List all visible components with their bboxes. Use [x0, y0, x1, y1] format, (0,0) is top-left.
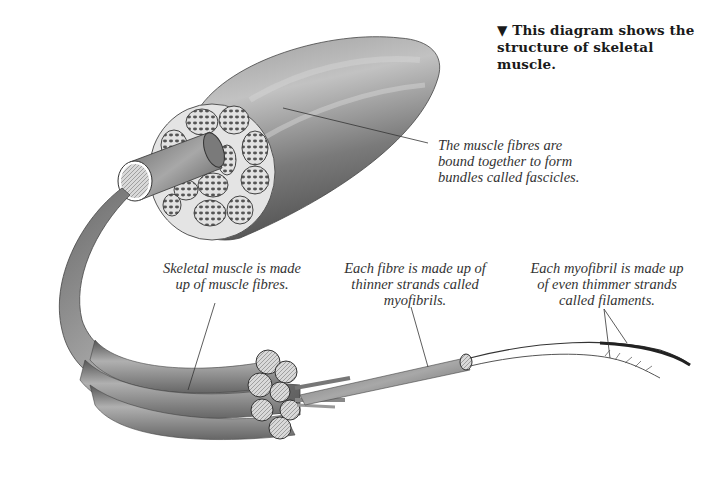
label-myofibrils: Each fibre is made up of thinner strands…	[330, 260, 500, 308]
diagram-title: ▼ This diagram shows the structure of sk…	[497, 22, 707, 73]
fibre-bundle	[80, 340, 350, 440]
myofibril-strand	[300, 354, 472, 405]
leader-myofibrils	[411, 307, 428, 367]
label-filaments: Each myofibril is made up of even thimme…	[512, 260, 702, 308]
label-fascicles: The muscle fibres are bound together to …	[438, 137, 638, 185]
filaments	[470, 342, 690, 378]
label-muscle-fibres: Skeletal muscle is made up of muscle fib…	[152, 260, 312, 292]
triangle-marker-icon: ▼	[497, 22, 507, 38]
